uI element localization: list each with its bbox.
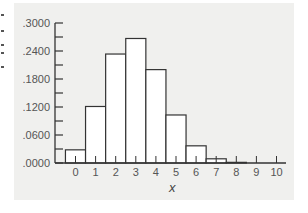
y-tick-label: .0000 [10, 157, 50, 169]
histogram-bar [106, 54, 126, 163]
y-tick-label: .2400 [10, 45, 50, 57]
histogram-bar [166, 115, 186, 163]
x-tick-label: 1 [88, 166, 104, 178]
x-tick-label: 9 [248, 166, 264, 178]
x-tick-label: 6 [188, 166, 204, 178]
x-tick-label: 10 [269, 166, 285, 178]
histogram-chart: .0000.0600.1200.1800.2400.3000 012345678… [0, 0, 308, 213]
x-tick-label: 7 [208, 166, 224, 178]
x-tick-label: 3 [128, 166, 144, 178]
x-tick-label: 0 [68, 166, 84, 178]
x-tick-label: 2 [108, 166, 124, 178]
x-tick-label: 5 [168, 166, 184, 178]
y-tick-label: .1200 [10, 101, 50, 113]
histogram-bar [86, 106, 106, 163]
histogram-bar [146, 70, 166, 163]
y-tick-label: .1800 [10, 73, 50, 85]
y-tick-label: .0600 [10, 129, 50, 141]
x-axis-title: x [169, 180, 176, 195]
x-tick-label: 8 [228, 166, 244, 178]
y-tick-label: .3000 [10, 17, 50, 29]
x-tick-label: 4 [148, 166, 164, 178]
histogram-bar [126, 38, 146, 163]
